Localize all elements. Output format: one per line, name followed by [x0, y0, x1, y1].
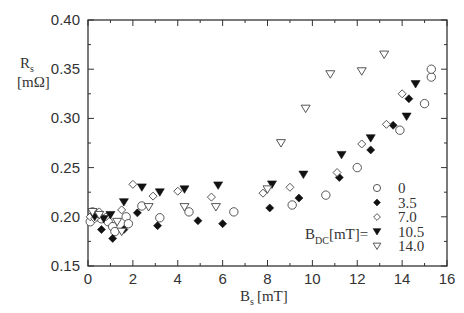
filled-triangle-down-marker: [299, 171, 308, 178]
open-circle-marker: [288, 201, 296, 209]
open-circle-marker: [322, 191, 330, 199]
x-tick-label: 16: [439, 270, 456, 287]
open-triangle-down-marker: [276, 140, 285, 147]
open-circle-marker: [156, 214, 164, 222]
x-tick-label: 2: [129, 270, 137, 287]
filled-diamond-marker: [266, 204, 274, 212]
y-tick-label: 0.35: [51, 60, 80, 77]
filled-triangle-down-marker: [337, 151, 346, 158]
x-tick-label: 6: [218, 270, 226, 287]
x-tick-label: 4: [174, 270, 182, 287]
open-circle-marker: [353, 163, 361, 171]
open-circle-marker: [230, 208, 238, 216]
open-circle-marker: [138, 202, 146, 210]
y-axis-unit: [mΩ]: [17, 74, 50, 90]
open-circle-marker: [373, 184, 380, 191]
open-triangle-down-marker: [357, 68, 366, 75]
open-diamond-marker: [149, 192, 157, 200]
series-3.5: [97, 95, 412, 243]
open-triangle-down-marker: [301, 105, 310, 112]
y-tick-label: 0.20: [51, 208, 80, 225]
open-diamond-marker: [382, 120, 390, 128]
data-points: [86, 51, 435, 242]
legend-label: 14.0: [398, 238, 424, 254]
y-tick-label: 0.25: [51, 159, 80, 176]
open-triangle-down-marker: [326, 71, 335, 78]
x-tick-label: 0: [84, 270, 92, 287]
legend-title: BDC[mT]=: [305, 226, 368, 246]
legend: 03.57.010.514.0: [373, 180, 424, 254]
x-tick-label: 8: [263, 270, 271, 287]
filled-diamond-marker: [97, 226, 105, 234]
x-tick-label: 10: [304, 270, 321, 287]
plot-frame: [88, 20, 447, 266]
filled-diamond-marker: [219, 220, 227, 228]
filled-triangle-down-marker: [373, 229, 381, 235]
open-diamond-marker: [398, 90, 406, 98]
open-diamond-marker: [129, 180, 137, 188]
filled-diamond-marker: [367, 146, 375, 154]
x-tick-label: 14: [394, 270, 411, 287]
filled-diamond-marker: [374, 199, 381, 206]
open-circle-marker: [427, 65, 435, 73]
open-triangle-down-marker: [373, 243, 381, 249]
filled-triangle-down-marker: [214, 182, 223, 189]
filled-diamond-marker: [295, 194, 303, 202]
open-triangle-down-marker: [211, 204, 220, 211]
scatter-chart: 02468101214160.150.200.250.300.350.40 Rs…: [0, 0, 464, 313]
open-diamond-marker: [358, 140, 366, 148]
filled-triangle-down-marker: [366, 135, 375, 142]
filled-triangle-down-marker: [137, 184, 146, 191]
x-tick-label: 12: [349, 270, 366, 287]
filled-triangle-down-marker: [402, 113, 411, 120]
filled-triangle-down-marker: [411, 81, 420, 88]
open-circle-marker: [396, 126, 404, 134]
filled-diamond-marker: [194, 217, 202, 225]
open-diamond-marker: [286, 183, 294, 191]
x-axis-title: Bs[mT]: [240, 288, 288, 307]
axis-ticks: [88, 20, 447, 266]
filled-triangle-down-marker: [119, 199, 128, 206]
y-tick-label: 0.15: [51, 257, 80, 274]
open-diamond-marker: [207, 193, 215, 201]
y-axis-title: Rs: [20, 55, 34, 74]
open-diamond-marker: [174, 187, 182, 195]
open-circle-marker: [427, 73, 435, 81]
y-tick-label: 0.40: [51, 11, 80, 28]
y-tick-label: 0.30: [51, 109, 80, 126]
open-circle-marker: [420, 99, 428, 107]
open-circle-marker: [124, 219, 132, 227]
filled-diamond-marker: [154, 222, 162, 230]
series-7.0: [86, 90, 406, 223]
filled-diamond-marker: [405, 95, 413, 103]
open-diamond-marker: [374, 214, 381, 221]
open-triangle-down-marker: [380, 51, 389, 58]
tick-labels: 02468101214160.150.200.250.300.350.40: [51, 11, 456, 287]
series-14.0: [88, 51, 389, 236]
